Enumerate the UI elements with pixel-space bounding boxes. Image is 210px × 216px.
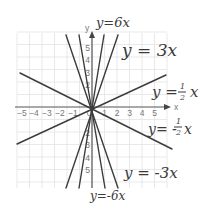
svg-text:5: 5 bbox=[85, 43, 90, 53]
label-y-neg-half-x: y= - 1 2 x bbox=[147, 117, 192, 137]
svg-text:5: 5 bbox=[152, 108, 157, 118]
svg-text:−4: −4 bbox=[29, 108, 39, 118]
svg-text:−5: −5 bbox=[17, 108, 27, 118]
label-y-3x: y = 3x bbox=[121, 40, 177, 60]
svg-text:x: x bbox=[190, 83, 199, 101]
svg-text:2: 2 bbox=[179, 93, 185, 102]
label-y-neg-6x: y=-6x bbox=[89, 189, 126, 203]
label-y-neg-3x: y = -3x bbox=[123, 164, 178, 182]
x-tick-labels: −5 −4 −3 −2 −1 0 1 2 3 4 5 bbox=[17, 108, 157, 118]
svg-text:x: x bbox=[184, 121, 192, 137]
svg-text:1: 1 bbox=[176, 117, 181, 126]
y-axis-label: y bbox=[85, 23, 90, 33]
svg-text:−2: −2 bbox=[55, 108, 65, 118]
x-axis-arrow-icon bbox=[164, 104, 171, 110]
svg-text:4: 4 bbox=[140, 108, 145, 118]
x-axis-label: x bbox=[174, 102, 179, 112]
graph-of-lines: x y −5 −4 −3 −2 −1 0 1 2 3 4 5 5 4 3 2 2… bbox=[0, 0, 210, 216]
svg-text:5: 5 bbox=[85, 165, 90, 175]
svg-text:3: 3 bbox=[127, 108, 132, 118]
svg-text:4: 4 bbox=[85, 55, 90, 65]
svg-text:y =: y = bbox=[151, 83, 178, 101]
label-y-half-x: y = 1 2 x bbox=[151, 82, 199, 102]
svg-text:2: 2 bbox=[175, 128, 181, 137]
svg-text:y= -: y= - bbox=[147, 121, 177, 137]
svg-text:1: 1 bbox=[180, 82, 185, 91]
svg-text:2: 2 bbox=[115, 108, 120, 118]
svg-text:4: 4 bbox=[85, 153, 90, 163]
svg-text:−3: −3 bbox=[42, 108, 52, 118]
label-y-6x: y=6x bbox=[95, 15, 131, 30]
